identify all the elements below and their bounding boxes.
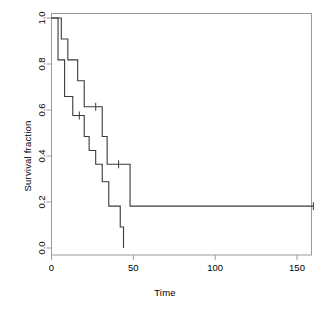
y-tick-label: 0.6 [36, 103, 47, 116]
x-tick-label: 150 [289, 262, 305, 273]
x-axis-ticks [52, 255, 298, 260]
y-tick-label: 0.8 [36, 57, 47, 70]
x-axis-tick-labels: 050100150 [49, 262, 305, 273]
y-axis-tick-labels: 0.00.20.40.60.81.0 [36, 11, 47, 254]
y-tick-label: 0.2 [36, 195, 47, 208]
x-tick-label: 0 [49, 262, 54, 273]
y-tick-label: 1.0 [36, 11, 47, 24]
y-tick-label: 0.4 [36, 149, 47, 162]
survival-plot-figure: 0.00.20.40.60.81.0 050100150 Time Surviv… [0, 0, 330, 312]
x-tick-label: 100 [207, 262, 223, 273]
x-tick-label: 50 [128, 262, 139, 273]
series-layer [52, 18, 314, 248]
plot-canvas: 0.00.20.40.60.81.0 050100150 [0, 0, 330, 312]
y-axis-title: Survival fraction [22, 0, 36, 312]
censor-marks-upper [96, 103, 314, 210]
plot-border [52, 14, 312, 256]
y-tick-label: 0.0 [36, 241, 47, 254]
plot-frame [52, 14, 312, 256]
y-axis-ticks [47, 18, 52, 248]
x-axis-title: Time [0, 287, 330, 298]
survival-curve-lower [52, 18, 124, 248]
survival-curve-upper [52, 18, 314, 206]
